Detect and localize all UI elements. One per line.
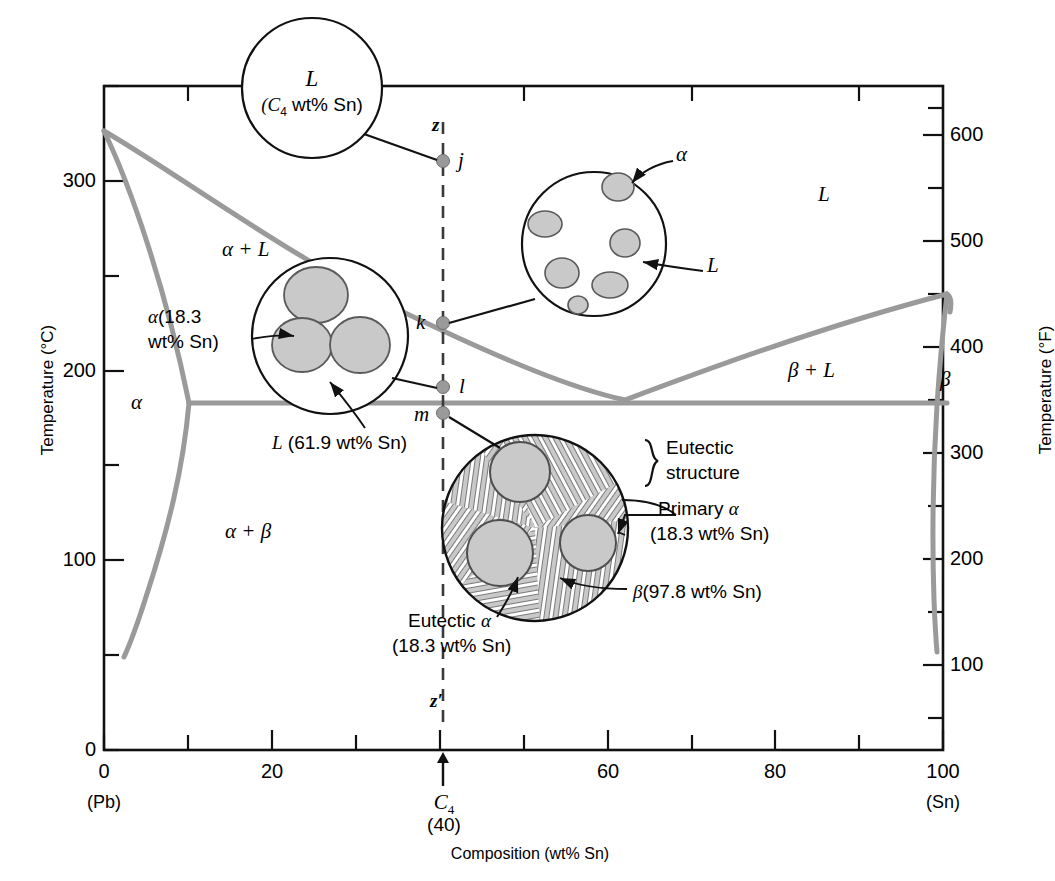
bottom-tick-label-60: 60 bbox=[588, 760, 628, 783]
left-tick-label-0: 0 bbox=[62, 738, 96, 761]
region-label-beta-plus-L: β + L bbox=[788, 358, 835, 383]
callout-alpha-composition-line2: wt% Sn) bbox=[148, 331, 219, 353]
region-label-alpha-plus-L: α + L bbox=[222, 237, 269, 262]
bottom-axis-title: Composition (wt% Sn) bbox=[330, 845, 730, 863]
left-tick-label-100: 100 bbox=[34, 548, 96, 571]
region-label-liquid: L bbox=[818, 182, 830, 207]
callout-primary-alpha-line1: Primary α Primary α bbox=[658, 498, 739, 520]
phase-diagram-figure: Temperature (°C) Temperature (°F) Compos… bbox=[0, 0, 1055, 881]
bottom-tick-label-20: 20 bbox=[252, 760, 292, 783]
primary-alpha-grain bbox=[467, 520, 533, 586]
right-tick-label-500: 500 bbox=[950, 229, 983, 252]
bottom-tick-label-0: 0 bbox=[84, 760, 124, 783]
marker-point-k bbox=[437, 317, 450, 330]
primary-alpha-grain bbox=[490, 442, 550, 502]
right-axis-title: Temperature (°F) bbox=[1036, 280, 1055, 500]
region-label-alpha: α bbox=[131, 390, 142, 415]
region-label-alpha-plus-beta: α + β bbox=[225, 519, 271, 544]
right-tick-label-200: 200 bbox=[950, 547, 983, 570]
callout-primary-alpha-line2: (18.3 wt% Sn) bbox=[650, 523, 769, 545]
primary-alpha-grain bbox=[560, 515, 616, 571]
alloy-composition-marker bbox=[437, 752, 449, 786]
alloy-composition-value: (40) bbox=[396, 814, 492, 836]
marker-point-m bbox=[437, 407, 450, 420]
left-tick-label-300: 300 bbox=[34, 169, 96, 192]
region-label-beta: β bbox=[940, 367, 950, 392]
right-tick-label-400: 400 bbox=[950, 335, 983, 358]
marker-point-j bbox=[437, 155, 450, 168]
callout-alpha-particle-label: α bbox=[676, 142, 687, 167]
marker-label-l: l bbox=[459, 374, 465, 399]
callout-liquid-composition-619: L (61.9 wt% Sn) L (61.9 wt% Sn) bbox=[272, 432, 407, 454]
right-tick-label-100: 100 bbox=[950, 653, 983, 676]
marker-label-j: j bbox=[458, 148, 464, 173]
callout-eutectic-structure-line1: Eutectic bbox=[666, 437, 734, 459]
bottom-endpoint-label-pb: (Pb) bbox=[76, 792, 132, 813]
callout-liquid-label-L: L bbox=[282, 66, 342, 92]
marker-label-m: m bbox=[414, 402, 429, 427]
callout-eutectic-structure-line2: structure bbox=[666, 462, 740, 484]
right-tick-label-600: 600 bbox=[950, 123, 983, 146]
phase-diagram-canvas bbox=[0, 0, 1055, 881]
right-tick-label-300: 300 bbox=[950, 441, 983, 464]
callout-alpha-composition-line1: αα(18.3(18.3 bbox=[148, 306, 201, 328]
bottom-tick-label-100: 100 bbox=[923, 760, 963, 783]
cooling-line-label-z: z bbox=[432, 114, 439, 136]
callout-beta-composition: β(97.8 wt% Sn) β(97.8 wt% Sn) bbox=[633, 581, 762, 603]
callout-eutectic-alpha-line1: Eutectic α Eutectic α bbox=[408, 610, 491, 632]
marker-point-l bbox=[437, 381, 450, 394]
cooling-line-label-z-prime: z′ bbox=[430, 690, 443, 712]
left-axis-title: Temperature (°C) bbox=[38, 280, 58, 500]
bottom-endpoint-label-sn: (Sn) bbox=[915, 792, 971, 813]
callout-liquid-composition: (C4 wt% Sn) bbox=[244, 94, 380, 119]
callout-liquid-matrix-label: L bbox=[707, 253, 719, 278]
left-tick-label-200: 200 bbox=[34, 359, 96, 382]
marker-label-k: k bbox=[416, 310, 425, 335]
bottom-tick-label-80: 80 bbox=[755, 760, 795, 783]
callout-eutectic-alpha-line2: (18.3 wt% Sn) bbox=[392, 635, 511, 657]
